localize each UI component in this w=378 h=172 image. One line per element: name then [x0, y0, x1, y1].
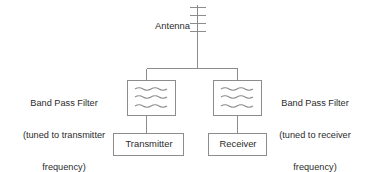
bpf-receiver-label: Band Pass Filter (tuned to receiver freq… — [254, 76, 376, 172]
bpf-transmitter-label-line2: (tuned to transmitter — [2, 130, 126, 141]
diagram-root: Antenna Band Pass Filter (tuned to trans… — [0, 0, 378, 172]
receiver-label: Receiver — [207, 138, 269, 149]
bpf-receiver-label-line3: frequency) — [254, 162, 376, 172]
bpf-transmitter-label-line3: frequency) — [2, 162, 126, 172]
antenna-label: Antenna — [128, 21, 190, 32]
transmitter-label: Transmitter — [112, 138, 186, 149]
bpf-transmitter-label: Band Pass Filter (tuned to transmitter f… — [2, 76, 126, 172]
wavy-lines-icon-right — [221, 88, 253, 108]
bpf-receiver-label-line1: Band Pass Filter — [254, 98, 376, 109]
wavy-lines-icon-left — [135, 88, 167, 108]
bpf-transmitter-label-line1: Band Pass Filter — [2, 98, 126, 109]
bpf-receiver-label-line2: (tuned to receiver — [254, 130, 376, 141]
bpf-transmitter-box[interactable] — [128, 81, 176, 116]
